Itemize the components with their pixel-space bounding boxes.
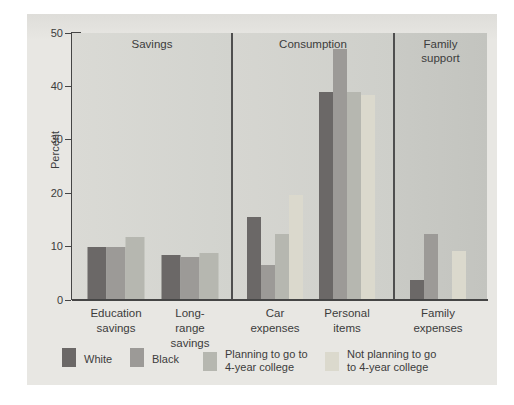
panel-separator (231, 33, 233, 300)
bar-not-planning (289, 195, 303, 300)
panel-separator (393, 33, 395, 300)
plot-area: SavingsEducation savingsLong-range savin… (72, 33, 487, 300)
legend-item-black: Black (130, 348, 179, 367)
bar-group (410, 234, 466, 300)
category-label: Car expenses (250, 306, 299, 336)
y-tick-mark (65, 300, 71, 301)
bar-not-planning (361, 95, 375, 300)
figure-box: Percent 01020304050 SavingsEducation sav… (27, 14, 497, 385)
y-tick-mark (65, 86, 71, 87)
y-tick-label: 20 (33, 187, 63, 199)
page: Percent 01020304050 SavingsEducation sav… (0, 0, 514, 405)
y-tick-mark (65, 33, 71, 34)
category-label: Education savings (90, 306, 141, 336)
category-label: Long-range savings (169, 306, 211, 351)
y-tick-label: 30 (33, 133, 63, 145)
bar-white (410, 280, 424, 300)
legend-item-planning: Planning to go to 4-year college (203, 348, 308, 375)
y-tick-label: 50 (33, 27, 63, 39)
y-tick-label: 0 (33, 294, 63, 306)
y-tick-label: 40 (33, 80, 63, 92)
chart-panel-2: ConsumptionCar expensesPersonal items (232, 33, 394, 300)
bar-planning (126, 237, 145, 300)
bar-planning (347, 92, 361, 300)
bar-group (162, 253, 219, 300)
x-axis-line (72, 299, 488, 301)
y-tick-label: 10 (33, 240, 63, 252)
legend-item-white: White (62, 348, 112, 367)
bar-planning (275, 234, 289, 300)
panel-title: Savings (72, 37, 232, 51)
y-tick-mark (65, 246, 71, 247)
bar-black (107, 247, 126, 300)
bar-black (333, 49, 347, 300)
y-axis-label: Percent (49, 120, 61, 180)
bar-white (247, 217, 261, 300)
bar-black (261, 265, 275, 300)
legend-item-not-planning: Not planning to go to 4-year college (325, 348, 436, 375)
bar-white (319, 92, 333, 300)
legend-swatch-planning (203, 352, 217, 371)
chart-panel-1: SavingsEducation savingsLong-range savin… (72, 33, 232, 300)
bar-group (247, 195, 303, 300)
legend-swatch-white (62, 348, 76, 367)
bar-white (162, 255, 181, 300)
legend-swatch-not-planning (325, 352, 339, 371)
y-tick-mark (65, 139, 71, 140)
legend-label: Planning to go to 4-year college (225, 348, 308, 375)
category-label: Family expenses (413, 306, 462, 336)
bar-group (319, 49, 375, 300)
category-label: Personal items (324, 306, 369, 336)
legend-label: White (84, 353, 112, 367)
bar-black (181, 257, 200, 300)
y-tick-mark (65, 193, 71, 194)
panel-title: Family support (394, 37, 487, 66)
chart-panel-3: Family supportFamily expenses (394, 33, 487, 300)
bar-planning (200, 253, 219, 300)
bar-group (88, 237, 145, 300)
bar-not-planning (452, 251, 466, 300)
legend-swatch-black (130, 348, 144, 367)
legend-label: Black (152, 353, 179, 367)
bar-white (88, 247, 107, 300)
legend-label: Not planning to go to 4-year college (347, 348, 436, 375)
bar-black (424, 234, 438, 300)
